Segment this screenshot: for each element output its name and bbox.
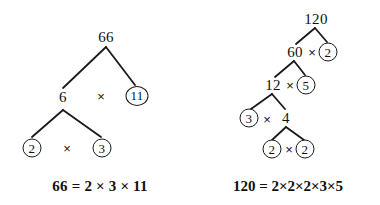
prime-factor-node-3: 3 — [93, 139, 112, 158]
prime-factor-node-2: 2 — [23, 139, 42, 158]
prime-factor-node-5: 5 — [297, 76, 316, 95]
tree-edge — [296, 28, 315, 44]
multiplication-sign: × — [263, 113, 271, 126]
prime-factor-node-2: 2 — [263, 140, 282, 159]
prime-factor-node-2: 2 — [319, 43, 338, 62]
tree-edge — [32, 110, 63, 137]
tree-edge — [251, 94, 272, 109]
composite-node-12: 12 — [265, 78, 281, 93]
tree-edge — [63, 47, 106, 88]
tree-edge — [272, 127, 286, 140]
equation-120: 120 = 2×2×2×3×5 — [233, 179, 343, 194]
multiplication-sign: × — [286, 79, 294, 92]
multiplication-sign: × — [63, 142, 71, 155]
composite-node-120: 120 — [304, 12, 327, 27]
composite-node-4: 4 — [282, 111, 290, 126]
composite-node-60: 60 — [287, 45, 303, 60]
tree-edge — [286, 127, 304, 140]
tree-branch-lines — [0, 0, 380, 205]
multiplication-sign: × — [285, 143, 293, 156]
tree-edge — [63, 110, 101, 137]
composite-node-6: 6 — [59, 90, 67, 105]
tree-edge — [294, 61, 305, 75]
factor-trees-figure: 6661123××1206021253422×××× 66 = 2 × 3 × … — [0, 0, 380, 205]
tree-edge — [315, 28, 327, 42]
composite-node-66: 66 — [98, 30, 114, 45]
multiplication-sign: × — [308, 46, 316, 59]
prime-factor-node-3: 3 — [240, 109, 259, 128]
tree-edge — [106, 47, 135, 85]
equation-66: 66 = 2 × 3 × 11 — [52, 179, 147, 194]
tree-edge — [275, 61, 294, 77]
multiplication-sign: × — [97, 90, 105, 103]
prime-factor-node-2: 2 — [296, 140, 315, 159]
prime-factor-node-11: 11 — [126, 86, 149, 106]
tree-edge — [272, 94, 285, 109]
